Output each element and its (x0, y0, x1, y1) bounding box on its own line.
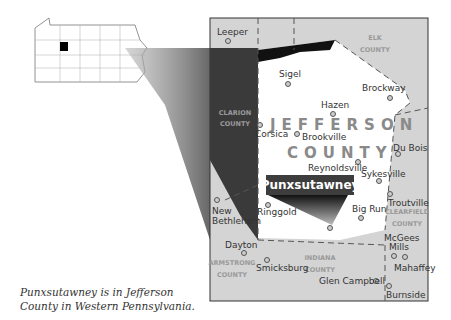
caption-line2: County in Western Pennsylvania. (20, 299, 220, 313)
svg-text:Bethlehem: Bethlehem (212, 216, 261, 226)
svg-text:Leeper: Leeper (217, 27, 248, 37)
svg-text:Corsica: Corsica (255, 129, 288, 139)
caption: Punxsutawney is in Jefferson County in W… (20, 285, 220, 313)
svg-text:Dayton: Dayton (225, 240, 258, 250)
svg-text:New: New (212, 206, 232, 216)
svg-text:Sigel: Sigel (279, 69, 301, 79)
svg-text:Hazen: Hazen (321, 100, 349, 110)
svg-text:Du Bois: Du Bois (393, 143, 428, 153)
county-title-line2: COUNTY (287, 144, 393, 162)
caption-line1: Punxsutawney is in Jefferson (20, 285, 220, 299)
svg-text:Troutville: Troutville (387, 198, 429, 208)
svg-text:Mahaffey: Mahaffey (394, 263, 436, 273)
svg-text:Glen Campbell: Glen Campbell (319, 276, 385, 286)
map-graphic: ELKCOUNTY CLARIONCOUNTY CLEARFIELDCOUNTY… (0, 0, 451, 320)
svg-text:Burnside: Burnside (386, 290, 426, 300)
punxsutawney-label: Punxsutawney (261, 178, 360, 192)
svg-text:Brockway: Brockway (362, 83, 406, 93)
svg-text:Ringgold: Ringgold (257, 207, 297, 217)
svg-text:Reynoldsville: Reynoldsville (308, 163, 368, 173)
svg-text:Sykesville: Sykesville (361, 169, 406, 179)
svg-text:Big Run: Big Run (352, 204, 387, 214)
jefferson-county-marker (60, 42, 68, 51)
svg-text:Smicksburg: Smicksburg (256, 263, 309, 273)
svg-text:Mills: Mills (389, 242, 409, 252)
svg-text:Brookville: Brookville (302, 132, 347, 142)
